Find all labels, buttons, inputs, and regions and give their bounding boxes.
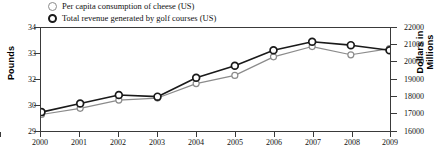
x-tick-mark: [196, 132, 197, 137]
x-tick-mark: [274, 132, 275, 137]
right-tick-label: 17000: [404, 110, 438, 118]
right-tick-mark: [391, 79, 397, 80]
x-tick-label: 2003: [140, 139, 174, 147]
chart-legend: Per capita consumption of cheese (US) To…: [48, 1, 216, 25]
data-point-marker: [193, 74, 200, 81]
right-tick-label: 19000: [404, 76, 438, 84]
x-tick-mark: [79, 132, 80, 137]
x-tick-label: 2006: [257, 139, 291, 147]
legend-label-cheese: Per capita consumption of cheese (US): [62, 2, 194, 11]
x-tick-label: 2000: [23, 139, 57, 147]
data-point-marker: [309, 38, 316, 45]
data-point-marker: [77, 100, 84, 107]
x-tick-mark: [390, 132, 391, 137]
series-line: [42, 47, 390, 115]
x-tick-label: 2002: [101, 139, 135, 147]
right-tick-mark: [391, 131, 397, 132]
data-point-marker: [270, 47, 277, 54]
data-point-marker: [386, 47, 390, 54]
data-point-marker: [271, 54, 277, 60]
right-tick-mark: [391, 44, 397, 45]
data-point-marker: [232, 72, 238, 78]
chart-figure: Per capita consumption of cheese (US) To…: [0, 0, 440, 153]
x-tick-label: 2007: [296, 139, 330, 147]
data-point-marker: [231, 62, 238, 69]
x-tick-label: 2001: [62, 139, 96, 147]
right-tick-mark: [391, 96, 397, 97]
plot-area: [40, 27, 391, 132]
legend-item-cheese: Per capita consumption of cheese (US): [48, 1, 216, 12]
data-point-marker: [154, 93, 161, 100]
right-tick-mark: [391, 27, 397, 28]
x-tick-mark: [352, 132, 353, 137]
right-tick-label: 18000: [404, 93, 438, 101]
x-tick-label: 2005: [218, 139, 252, 147]
legend-label-golf: Total revenue generated by golf courses …: [62, 14, 216, 23]
left-tick-label: 33: [12, 50, 36, 58]
x-tick-mark: [118, 132, 119, 137]
data-point-marker: [41, 109, 45, 116]
data-point-marker: [347, 42, 354, 49]
data-point-marker: [348, 52, 354, 58]
x-tick-label: 2004: [179, 139, 213, 147]
left-tick-label: 30: [12, 102, 36, 110]
x-tick-mark: [235, 132, 236, 137]
data-point-marker: [115, 92, 122, 99]
open-circle-icon: [48, 14, 57, 23]
series-layer: [41, 28, 390, 131]
x-tick-mark: [157, 132, 158, 137]
right-tick-label: 22000: [404, 24, 438, 32]
left-tick-label: 29: [12, 128, 36, 136]
legend-item-golf: Total revenue generated by golf courses …: [48, 13, 216, 24]
x-tick-label: 2008: [335, 139, 369, 147]
x-tick-label: 2009: [373, 139, 407, 147]
right-tick-label: 16000: [404, 128, 438, 136]
open-circle-icon: [48, 2, 57, 11]
x-tick-mark: [40, 132, 41, 137]
left-tick-label: 34: [12, 24, 36, 32]
right-tick-label: 20000: [404, 58, 438, 66]
x-tick-mark: [313, 132, 314, 137]
right-tick-mark: [391, 61, 397, 62]
right-tick-label: 21000: [404, 41, 438, 49]
right-tick-mark: [391, 113, 397, 114]
left-tick-label: 32: [12, 76, 36, 84]
